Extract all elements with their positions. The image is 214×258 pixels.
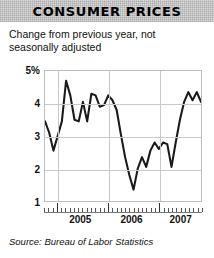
x-axis-tick-minor [65,208,66,212]
x-axis-tick-minor [176,208,177,212]
x-axis-tick-minor [193,208,194,212]
chart-card: CONSUMER PRICES Change from previous yea… [0,0,214,258]
gridline-horizontal [45,137,201,138]
line-series [45,71,201,201]
x-axis-tick-minor [82,208,83,212]
x-axis-tick-minor [142,208,143,212]
x-axis-tick-minor [172,208,173,212]
x-axis-tick-minor [155,208,156,212]
x-axis-tick-minor [87,208,88,212]
x-axis-tick-minor [95,208,96,212]
x-axis-tick-minor [151,208,152,212]
x-axis-tick-minor [125,208,126,212]
axis-baseline [44,212,202,213]
x-axis-tick-label: 2005 [69,214,91,225]
x-axis-tick-label: 2006 [120,214,142,225]
gridline-vertical [58,71,59,201]
x-axis-tick-major [57,203,58,212]
y-axis-tick-label: 2 [6,164,40,175]
gridline-vertical [109,71,110,201]
x-axis-tick-minor [168,208,169,212]
x-axis-tick-minor [104,208,105,212]
x-axis-tick-minor [74,208,75,212]
x-axis-tick-minor [129,208,130,212]
y-axis-tick-label: 1 [6,197,40,208]
x-axis-tick-minor [78,208,79,212]
x-axis-tick-minor [185,208,186,212]
chart-area: 200520062007 12345% [0,62,214,230]
x-axis [44,202,202,213]
x-axis-tick-label: 2007 [170,214,192,225]
x-axis-tick-minor [189,208,190,212]
x-axis-tick-minor [164,208,165,212]
chart-title-band: CONSUMER PRICES [0,0,214,22]
gridline-horizontal [45,170,201,171]
gridline-horizontal [45,104,201,105]
page-title: CONSUMER PRICES [33,4,182,19]
x-axis-tick-major [159,203,160,212]
source-note: Source: Bureau of Labor Statistics [9,236,153,247]
x-axis-tick-minor [53,208,54,212]
plot-area [44,70,202,202]
x-axis-tick-minor [134,208,135,212]
y-axis-tick-label: 4 [6,98,40,109]
gridline-vertical [160,71,161,201]
x-axis-tick-minor [112,208,113,212]
x-axis-tick-minor [138,208,139,212]
x-axis-tick-minor [100,208,101,212]
x-axis-tick-minor [198,208,199,212]
x-axis-tick-minor [91,208,92,212]
y-axis-tick-label: 5% [6,65,40,76]
x-axis-tick-minor [146,208,147,212]
x-axis-tick-minor [181,208,182,212]
x-axis-tick-minor [117,208,118,212]
chart-subtitle: Change from previous year, not seasonall… [9,28,205,53]
x-axis-tick-minor [44,208,45,212]
x-axis-tick-minor [202,208,203,212]
x-axis-tick-major [108,203,109,212]
x-axis-labels: 200520062007 [44,214,202,228]
x-axis-tick-minor [48,208,49,212]
x-axis-tick-minor [70,208,71,212]
y-axis-tick-label: 3 [6,131,40,142]
x-axis-tick-minor [121,208,122,212]
x-axis-tick-minor [61,208,62,212]
